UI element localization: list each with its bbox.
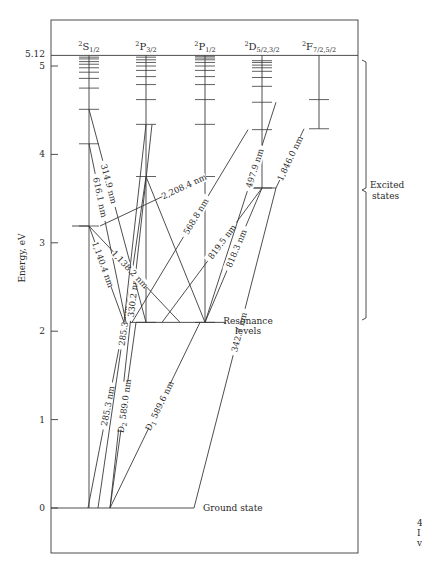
column-header-p32: 2P3/2 [135, 40, 156, 54]
ground-state-label: Ground state [203, 503, 263, 513]
axis-tick-label: 0 [39, 503, 45, 513]
margin-fragment-text: 4 [417, 518, 422, 528]
transition-label: D1 589.6 nm [143, 379, 177, 433]
excited-states-bracket [362, 60, 366, 320]
axis-tick-label: 4 [39, 149, 45, 159]
transitions: 285.3 nm285.3 nm330.2 nmD2 589.0 nmD1 58… [88, 102, 305, 508]
axis-tick-label: 2 [39, 326, 45, 336]
margin-fragment-text: v [416, 538, 422, 548]
resonance-levels-label-1: Resonance [223, 316, 272, 326]
transition-label: 568.8 nm [181, 196, 210, 236]
column-header-p12: 2P1/2 [194, 40, 215, 54]
transition-line [146, 177, 205, 323]
axis-title: Energy, eV [17, 233, 27, 283]
resonance-levels-label-2: levels [235, 326, 261, 336]
excited-states-label-2: states [372, 191, 400, 201]
transition-line [205, 102, 276, 322]
transition-line [89, 109, 146, 322]
transition-label: 1,846.0 nm [275, 134, 305, 182]
excited-states-label-1: Excited [370, 180, 405, 190]
annotations: ExcitedstatesResonancelevelsGround state… [203, 60, 422, 548]
column-headers: 2S1/22P3/22P1/22D5/2,3/22F7/2,5/2 [78, 40, 336, 54]
column-header-f: 2F7/2,5/2 [302, 40, 336, 54]
transition-label: 1,140.4 nm [90, 240, 116, 289]
axis-tick-label: 1 [39, 415, 45, 425]
transition-label: 285.3 nm [99, 385, 117, 427]
axis-top-label: 5.12 [25, 49, 45, 59]
axis-tick-label: 5 [39, 61, 45, 71]
column-header-d: 2D5/2,3/2 [244, 40, 279, 54]
margin-fragment-text: I [417, 528, 421, 538]
energy-level-diagram: 0123455.12Energy, eV 2S1/22P3/22P1/22D5/… [0, 0, 422, 564]
axis-tick-label: 3 [39, 238, 45, 248]
column-header-s: 2S1/2 [78, 40, 99, 54]
energy-axis: 0123455.12Energy, eV [17, 49, 58, 513]
